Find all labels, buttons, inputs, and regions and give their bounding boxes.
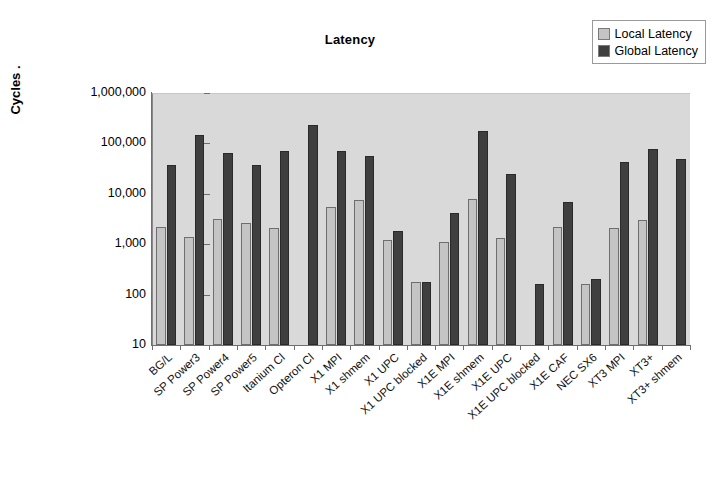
x-axis-tick-mark — [237, 345, 238, 350]
bar-global-latency — [620, 162, 630, 345]
y-axis-tick-mark — [204, 93, 210, 94]
chart-legend: Local Latency Global Latency — [592, 20, 706, 64]
chart-title: Latency — [250, 32, 450, 47]
y-axis-tick-label: 1,000 — [62, 236, 146, 250]
x-axis-tick-mark — [322, 345, 323, 350]
bar-local-latency — [241, 223, 251, 345]
bar-global-latency — [365, 156, 375, 345]
y-axis-line — [151, 92, 152, 346]
bar-global-latency — [591, 279, 601, 345]
y-axis-tick-label: 100 — [62, 287, 146, 301]
bar-local-latency — [496, 238, 506, 345]
x-axis-tick-mark — [548, 345, 549, 350]
legend-swatch-local — [598, 28, 610, 40]
y-axis-tick-label: 10 — [62, 337, 146, 351]
x-axis-tick-mark — [690, 345, 691, 350]
x-axis-tick-mark — [577, 345, 578, 350]
bar-local-latency — [213, 219, 223, 345]
y-axis-title: Cycles . — [8, 30, 32, 150]
bar-local-latency — [326, 207, 336, 345]
x-axis-tick-mark — [180, 345, 181, 350]
bar-global-latency — [506, 174, 516, 345]
bar-global-latency — [422, 282, 432, 345]
bar-global-latency — [280, 151, 290, 345]
x-axis-tick-mark — [265, 345, 266, 350]
x-axis-tick-mark — [662, 345, 663, 350]
x-axis-tick-mark — [492, 345, 493, 350]
x-axis-tick-mark — [152, 345, 153, 350]
chart-figure: Latency Local Latency Global Latency Cyc… — [0, 0, 714, 504]
bar-global-latency — [308, 125, 318, 345]
x-axis-tick-mark — [463, 345, 464, 350]
bar-global-latency — [252, 165, 262, 345]
bar-local-latency — [354, 200, 364, 345]
bar-local-latency — [184, 237, 194, 345]
x-axis-tick-mark — [435, 345, 436, 350]
bar-local-latency — [468, 199, 478, 345]
x-axis-tick-mark — [407, 345, 408, 350]
bar-local-latency — [581, 284, 591, 345]
legend-item-local: Local Latency — [598, 25, 698, 42]
legend-item-global: Global Latency — [598, 42, 698, 59]
bar-local-latency — [439, 242, 449, 345]
bar-local-latency — [609, 228, 619, 345]
legend-swatch-global — [598, 45, 610, 57]
y-axis-tick-label: 1,000,000 — [62, 85, 146, 99]
bar-local-latency — [269, 228, 279, 345]
y-axis-tick-mark — [204, 194, 210, 195]
y-axis-tick-mark — [204, 295, 210, 296]
bar-global-latency — [535, 284, 545, 345]
legend-label-local: Local Latency — [615, 27, 692, 41]
bar-global-latency — [676, 159, 686, 345]
x-axis-tick-mark — [379, 345, 380, 350]
x-axis-tick-mark — [520, 345, 521, 350]
bar-global-latency — [223, 153, 233, 345]
x-axis-tick-mark — [605, 345, 606, 350]
y-axis-tick-label: 10,000 — [62, 186, 146, 200]
bar-local-latency — [411, 282, 421, 345]
bar-global-latency — [450, 213, 460, 345]
bar-local-latency — [156, 227, 166, 345]
bar-global-latency — [648, 149, 658, 345]
bar-global-latency — [337, 151, 347, 345]
y-axis-tick-mark — [204, 143, 210, 144]
x-axis-tick-mark — [350, 345, 351, 350]
x-axis-tick-mark — [633, 345, 634, 350]
bar-global-latency — [195, 135, 205, 345]
bar-global-latency — [478, 131, 488, 345]
bar-global-latency — [393, 231, 403, 345]
x-axis-tick-mark — [209, 345, 210, 350]
bar-local-latency — [383, 240, 393, 345]
bar-global-latency — [167, 165, 177, 345]
legend-label-global: Global Latency — [615, 44, 698, 58]
x-axis-tick-mark — [294, 345, 295, 350]
y-axis-tick-label: 100,000 — [62, 135, 146, 149]
bar-local-latency — [638, 220, 648, 345]
x-axis-line — [151, 345, 691, 346]
bar-local-latency — [553, 227, 563, 345]
y-axis-tick-labels: 1,000,000100,00010,0001,00010010 — [58, 0, 146, 504]
y-axis-tick-mark — [204, 244, 210, 245]
bar-global-latency — [563, 202, 573, 345]
